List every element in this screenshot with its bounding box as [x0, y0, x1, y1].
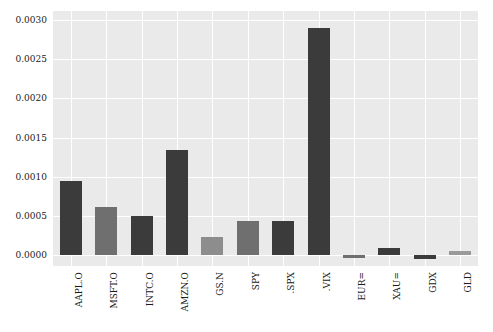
bar — [237, 221, 259, 255]
plot-area — [53, 11, 478, 266]
y-axis-tick-label: 0.0005 — [16, 211, 48, 220]
bar-chart-figure: 0.00000.00050.00100.00150.00200.00250.00… — [0, 0, 493, 332]
x-axis: AAPL.OMSFT.OINTC.OAMZN.OGS.NSPY.SPX.VIXE… — [53, 266, 478, 332]
bar — [378, 248, 400, 254]
x-axis-tick-label: GDX — [429, 272, 438, 293]
y-axis-tick-label: 0.0000 — [16, 250, 48, 259]
x-axis-tick-label: EUR= — [358, 272, 367, 300]
bar — [414, 255, 436, 259]
x-axis-tick-label: XAU= — [393, 272, 402, 300]
y-axis-tick-label: 0.0025 — [16, 55, 48, 64]
bar — [272, 221, 294, 255]
bar — [343, 255, 365, 258]
y-axis-tick-label: 0.0015 — [16, 133, 48, 142]
x-axis-tick-label: GS.N — [216, 272, 225, 296]
x-axis-tick-label: SPY — [252, 272, 261, 290]
y-axis: 0.00000.00050.00100.00150.00200.00250.00… — [0, 11, 53, 266]
bar-series — [53, 11, 478, 266]
x-axis-tick-label: MSFT.O — [110, 272, 119, 309]
bar — [95, 207, 117, 255]
bar — [166, 150, 188, 255]
bar — [308, 28, 330, 254]
x-axis-tick-label: AAPL.O — [75, 272, 84, 307]
bar — [201, 237, 223, 254]
x-axis-tick-label: AMZN.O — [181, 272, 190, 312]
x-axis-tick-label: .SPX — [287, 272, 296, 294]
y-axis-tick-label: 0.0010 — [16, 172, 48, 181]
y-axis-tick-label: 0.0030 — [16, 16, 48, 25]
y-axis-tick-label: 0.0020 — [16, 94, 48, 103]
x-axis-tick-label: .VIX — [323, 272, 332, 291]
x-axis-tick-label: GLD — [464, 272, 473, 292]
bar — [131, 216, 153, 255]
x-axis-tick-label: INTC.O — [146, 272, 155, 306]
bar — [449, 251, 471, 255]
bar — [60, 181, 82, 254]
